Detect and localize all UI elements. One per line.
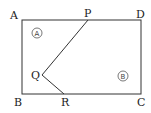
- point-label-a: A: [9, 9, 19, 22]
- geometry-diagram: A P D Q B R C A B: [0, 0, 151, 113]
- point-label-q: Q: [31, 69, 40, 82]
- region-label-a: A: [35, 30, 40, 38]
- polyline-pqr: [42, 20, 88, 94]
- point-label-p: P: [84, 7, 92, 20]
- point-label-d: D: [136, 8, 145, 21]
- region-a-marker: A: [32, 28, 42, 38]
- rectangle-abcd: [22, 20, 141, 94]
- region-label-b: B: [121, 73, 126, 81]
- point-label-c: C: [137, 96, 145, 109]
- region-b-marker: B: [118, 71, 128, 81]
- point-label-r: R: [61, 96, 70, 109]
- point-label-b: B: [14, 96, 22, 109]
